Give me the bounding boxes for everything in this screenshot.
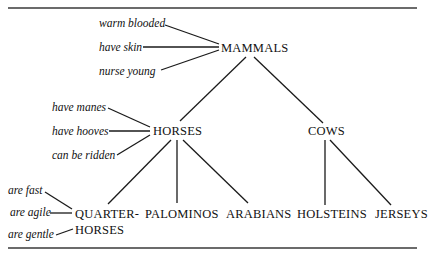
attr-are-agile: are agile (10, 206, 51, 219)
node-jerseys: JERSEYS (375, 207, 428, 221)
attr-can-be-ridden: can be ridden (52, 149, 115, 161)
attr-are-gentle: are gentle (8, 228, 54, 241)
node-horses: HORSES (153, 124, 202, 138)
mammal-hierarchy-diagram: MAMMALS HORSES COWS QUARTER- HORSES PALO… (0, 0, 433, 259)
node-arabians: ARABIANS (226, 207, 292, 221)
node-palominos: PALOMINOS (145, 207, 219, 221)
attr-have-hooves: have hooves (52, 125, 109, 137)
edge-can-be-ridden-horses (117, 135, 150, 155)
edge-warm-blooded-mammals (165, 25, 219, 44)
attr-are-fast: are fast (8, 184, 43, 197)
attr-have-skin: have skin (99, 41, 142, 53)
edge-horses-quarterhorses (108, 140, 171, 204)
node-holsteins: HOLSTEINS (297, 207, 367, 221)
edge-horses-arabians (183, 140, 248, 203)
edge-cows-jerseys (330, 140, 391, 205)
node-quarter-horses-line2: HORSES (75, 223, 124, 237)
edge-are-gentle-quarterhorses (56, 229, 73, 235)
node-quarter-horses-line1: QUARTER- (75, 207, 139, 221)
edge-mammals-cows (254, 57, 323, 123)
edge-mammals-horses (180, 57, 246, 121)
edge-nurse-young-mammals (161, 50, 219, 70)
attr-have-manes: have manes (52, 101, 106, 113)
edge-have-manes-horses (108, 108, 150, 127)
attr-nurse-young: nurse young (99, 65, 156, 78)
attr-warm-blooded: warm blooded (99, 17, 165, 29)
node-cows: COWS (308, 124, 345, 138)
node-mammals: MAMMALS (221, 41, 288, 55)
